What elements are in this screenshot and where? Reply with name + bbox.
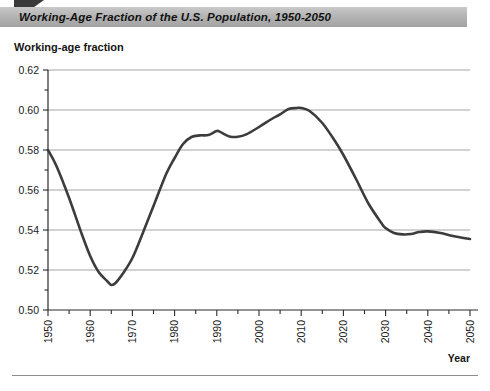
y-tick-label: 0.50 [19, 304, 40, 316]
y-tick-label: 0.54 [19, 224, 40, 236]
x-tick-label: 2020 [337, 320, 349, 344]
y-tick-label: 0.52 [19, 264, 40, 276]
x-tick-label: 1960 [84, 320, 96, 344]
y-tick-label: 0.58 [19, 144, 40, 156]
y-tick-labels-group: 0.500.520.540.560.580.600.62 [19, 64, 40, 316]
x-tick-label: 2050 [464, 320, 476, 344]
x-tick-labels-group: 1950196019701980199020002010202020302040… [42, 320, 476, 344]
x-axis-caption: Year [448, 352, 470, 364]
data-line-working-age-fraction [48, 108, 470, 285]
y-tick-label: 0.62 [19, 64, 40, 76]
x-tick-marks-group [48, 310, 470, 316]
bottom-divider [12, 375, 478, 376]
gridlines-group [48, 70, 470, 270]
x-tick-label: 1990 [211, 320, 223, 344]
line-chart-svg: 0.500.520.540.560.580.600.62 19501960197… [0, 0, 490, 391]
x-tick-label: 1970 [126, 320, 138, 344]
data-series-group [48, 108, 470, 285]
chart-plot-area: 0.500.520.540.560.580.600.62 19501960197… [0, 0, 490, 391]
x-tick-label: 2010 [295, 320, 307, 344]
y-tick-marks-group [43, 70, 48, 310]
x-tick-label: 2000 [253, 320, 265, 344]
y-tick-label: 0.60 [19, 104, 40, 116]
y-tick-label: 0.56 [19, 184, 40, 196]
x-tick-label: 1980 [168, 320, 180, 344]
x-tick-label: 2030 [379, 320, 391, 344]
x-tick-label: 1950 [42, 320, 54, 344]
x-tick-label: 2040 [422, 320, 434, 344]
